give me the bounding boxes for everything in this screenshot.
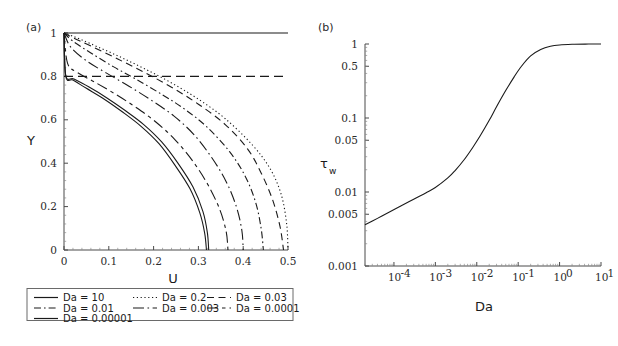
- svg-text:-4: -4: [400, 267, 411, 279]
- svg-text:10: 10: [512, 271, 525, 283]
- y-tick-label: 0.1: [341, 112, 358, 124]
- legend-item-label: Da = 0.00001: [63, 313, 133, 324]
- svg-text:-2: -2: [483, 267, 493, 279]
- y-tick-label: 0.6: [40, 113, 57, 125]
- panel-b-y-ticks: 0.0010.0050.010.050.10.51: [328, 38, 369, 272]
- panel-b-y-axis-title: τ w: [320, 156, 336, 176]
- panel-b-x-ticks: 10-410-310-210-1100101: [365, 262, 614, 283]
- panel-a-x-ticks: 00.10.20.30.40.5: [61, 246, 297, 267]
- panel-a-x-axis-title: U: [168, 271, 178, 286]
- y-tick-label: 0.001: [328, 260, 358, 272]
- y-tick-label: 0: [50, 244, 57, 256]
- y-tick-label: 0.5: [341, 60, 358, 72]
- x-tick-label: 10-3: [429, 267, 452, 283]
- y-tick-label: 0.2: [40, 200, 57, 212]
- data-curve: [64, 33, 228, 250]
- panel-b: (b) 10-410-310-210-1100101 0.0010.0050.0…: [318, 21, 614, 314]
- x-tick-label: 0.3: [190, 255, 207, 267]
- panel-b-label: (b): [318, 21, 334, 34]
- panel-b-y-axis-title-sub: w: [329, 166, 336, 176]
- panel-a: (a) 00.10.20.30.40.5 00.20.40.60.81 U Y: [26, 21, 296, 286]
- y-tick-label: 0.4: [40, 157, 57, 169]
- y-tick-label: 0.005: [328, 208, 358, 220]
- x-tick-label: 0.1: [100, 255, 117, 267]
- data-curve: [64, 33, 209, 250]
- legend-entries: Da = 10Da = 0.2Da = 0.03Da = 0.01Da = 0.…: [34, 292, 300, 324]
- legend-item-label: Da = 0.01: [63, 303, 114, 314]
- data-curve: [365, 44, 601, 225]
- y-tick-label: 1: [50, 27, 57, 39]
- x-tick-label: 101: [595, 267, 614, 283]
- y-tick-label: 0.01: [335, 186, 358, 198]
- x-tick-label: 0.4: [235, 255, 252, 267]
- legend-item-label: Da = 0.2: [162, 292, 206, 303]
- legend-item-label: Da = 0.03: [236, 292, 287, 303]
- x-tick-label: 0.2: [145, 255, 162, 267]
- svg-text:10: 10: [595, 271, 608, 283]
- panel-a-curves: [64, 33, 288, 250]
- svg-text:-3: -3: [442, 267, 452, 279]
- panel-b-curves: [365, 44, 601, 225]
- legend-item-label: Da = 10: [63, 292, 104, 303]
- panel-b-x-axis-title: Da: [475, 299, 493, 314]
- data-curve: [64, 33, 206, 250]
- svg-text:10: 10: [429, 271, 442, 283]
- svg-text:10: 10: [471, 271, 484, 283]
- y-tick-label: 0.8: [40, 70, 57, 82]
- panel-a-label: (a): [26, 21, 41, 34]
- x-tick-label: 0: [61, 255, 68, 267]
- legend-item-label: Da = 0.0001: [236, 303, 300, 314]
- data-curve: [64, 33, 284, 250]
- y-tick-label: 0.05: [335, 134, 358, 146]
- panel-b-axes: [365, 44, 601, 266]
- svg-text:-1: -1: [525, 267, 535, 279]
- figure-root: (a) 00.10.20.30.40.5 00.20.40.60.81 U Y …: [0, 0, 618, 346]
- data-curve: [64, 33, 243, 250]
- legend: Da = 10Da = 0.2Da = 0.03Da = 0.01Da = 0.…: [27, 289, 300, 325]
- panel-b-y-axis-title-main: τ: [320, 156, 328, 171]
- x-tick-label: 0.5: [280, 255, 297, 267]
- y-tick-label: 1: [351, 38, 358, 50]
- svg-text:10: 10: [554, 271, 567, 283]
- svg-text:0: 0: [566, 267, 573, 279]
- x-tick-label: 100: [554, 267, 573, 283]
- x-tick-label: 10-4: [388, 267, 411, 283]
- svg-text:10: 10: [388, 271, 401, 283]
- x-tick-label: 10-2: [471, 267, 494, 283]
- svg-text:1: 1: [608, 267, 615, 279]
- x-tick-label: 10-1: [512, 267, 535, 283]
- panel-a-y-axis-title: Y: [26, 133, 35, 148]
